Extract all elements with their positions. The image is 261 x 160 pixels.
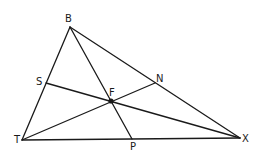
label-T: T [14, 135, 20, 145]
label-F: F [109, 88, 115, 98]
label-S: S [36, 77, 42, 87]
label-N: N [156, 74, 163, 84]
point-F-dot [108, 98, 113, 103]
cevian-BP [70, 27, 132, 139]
label-B: B [65, 14, 72, 24]
label-P: P [130, 142, 136, 152]
cevian-SX [46, 83, 240, 138]
triangle-diagram: B S N F T P X [0, 0, 261, 160]
label-X: X [242, 134, 249, 144]
